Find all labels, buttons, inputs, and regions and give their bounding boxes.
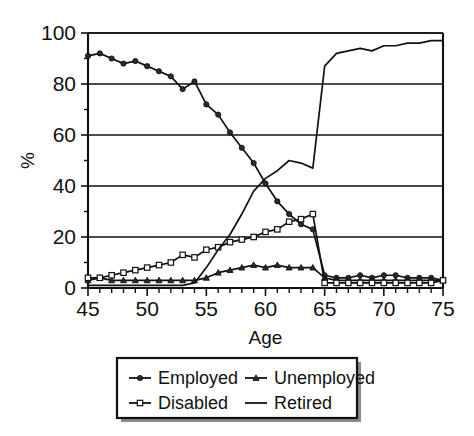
marker-employed-51	[156, 69, 161, 74]
marker-disabled-61	[275, 227, 280, 232]
marker-disabled-52	[168, 260, 173, 265]
marker-employed-52	[168, 74, 173, 79]
legend-label-retired: Retired	[274, 393, 332, 413]
chart-figure: 020406080100 45505560657075 % Age Employ…	[0, 0, 474, 436]
legend-label-disabled: Disabled	[158, 393, 228, 413]
y-axis-title: %	[17, 152, 38, 169]
marker-employed-62	[287, 211, 292, 216]
chart-legend: EmployedUnemployedDisabledRetired	[117, 358, 375, 422]
marker-disabled-70	[381, 280, 386, 285]
marker-disabled-49	[133, 267, 138, 272]
marker-disabled-47	[109, 273, 114, 278]
marker-disabled-75	[440, 278, 445, 283]
marker-disabled-60	[263, 229, 268, 234]
marker-employed-61	[275, 199, 280, 204]
marker-employed-53	[180, 87, 185, 92]
legend-marker-employed	[137, 375, 142, 380]
marker-employed-54	[192, 79, 197, 84]
marker-disabled-69	[369, 280, 374, 285]
marker-employed-59	[251, 160, 256, 165]
y-tick-label-0: 0	[64, 276, 76, 299]
marker-disabled-67	[346, 280, 351, 285]
marker-disabled-71	[393, 280, 398, 285]
marker-disabled-54	[192, 255, 197, 260]
legend-marker-disabled	[137, 400, 142, 405]
y-tick-label-20: 20	[53, 225, 76, 248]
y-tick-label-40: 40	[53, 174, 76, 197]
marker-disabled-62	[286, 219, 291, 224]
marker-disabled-50	[144, 265, 149, 270]
marker-employed-49	[133, 58, 138, 63]
marker-employed-57	[227, 130, 232, 135]
marker-disabled-51	[156, 262, 161, 267]
labor-force-status-by-age-line-chart: 020406080100 45505560657075 % Age Employ…	[0, 0, 474, 436]
marker-employed-50	[145, 64, 150, 69]
x-tick-label-65: 65	[313, 297, 336, 320]
marker-disabled-73	[417, 280, 422, 285]
x-tick-label-75: 75	[431, 297, 454, 320]
y-tick-label-60: 60	[53, 123, 76, 146]
y-tick-label-100: 100	[41, 21, 76, 44]
marker-disabled-66	[334, 280, 339, 285]
x-tick-label-70: 70	[372, 297, 395, 320]
x-tick-label-50: 50	[135, 297, 158, 320]
x-axis-title: Age	[249, 327, 283, 348]
marker-employed-60	[263, 181, 268, 186]
marker-employed-46	[97, 51, 102, 56]
marker-disabled-68	[357, 280, 362, 285]
marker-disabled-45	[85, 275, 90, 280]
x-tick-label-45: 45	[76, 297, 99, 320]
marker-employed-47	[109, 56, 114, 61]
marker-employed-48	[121, 61, 126, 66]
marker-disabled-48	[121, 270, 126, 275]
marker-employed-45	[85, 53, 90, 58]
marker-disabled-53	[180, 252, 185, 257]
marker-disabled-59	[251, 234, 256, 239]
marker-employed-56	[216, 112, 221, 117]
marker-employed-55	[204, 102, 209, 107]
marker-disabled-46	[97, 275, 102, 280]
marker-disabled-74	[428, 280, 433, 285]
marker-disabled-72	[405, 280, 410, 285]
legend-label-unemployed: Unemployed	[274, 368, 375, 388]
marker-disabled-65	[322, 280, 327, 285]
marker-disabled-58	[239, 237, 244, 242]
marker-disabled-64	[310, 211, 315, 216]
marker-disabled-55	[204, 247, 209, 252]
x-tick-label-55: 55	[195, 297, 218, 320]
y-tick-label-80: 80	[53, 72, 76, 95]
marker-disabled-63	[298, 216, 303, 221]
marker-disabled-57	[227, 239, 232, 244]
legend-label-employed: Employed	[158, 368, 238, 388]
marker-employed-58	[239, 145, 244, 150]
x-tick-label-60: 60	[254, 297, 277, 320]
